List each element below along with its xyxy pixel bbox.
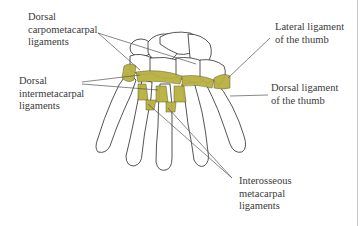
page-edge-divider xyxy=(357,0,358,226)
label-lateral-ligament-of-thumb: Lateral ligament of the thumb xyxy=(275,21,344,46)
label-interosseous-metacarpal-ligaments: Interosseous metacarpal ligaments xyxy=(239,175,292,213)
hand-ligament-diagram: Dorsal carpometacarpal ligaments Dorsal … xyxy=(0,0,360,226)
label-dorsal-intermetacarpal-ligaments: Dorsal intermetacarpal ligaments xyxy=(19,75,84,113)
label-dorsal-ligament-of-thumb: Dorsal ligament of the thumb xyxy=(271,82,338,107)
label-dorsal-carpometacarpal-ligaments: Dorsal carpometacarpal ligaments xyxy=(28,11,97,49)
